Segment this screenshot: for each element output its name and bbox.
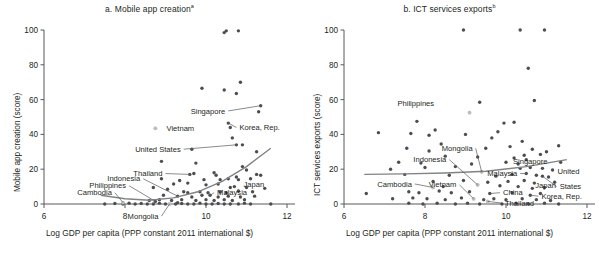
annotation-label: Korea, Rep. [239,123,280,132]
highlight-data-point [168,202,172,206]
annotation-label: Japan [535,181,556,190]
data-point [527,67,530,70]
data-point [133,202,136,205]
y-tick-label: 100 [24,26,38,35]
data-point [180,202,183,205]
data-point [496,130,499,133]
data-point [237,202,240,205]
annotation-label: United [558,167,580,176]
data-point [200,194,203,197]
annotation-label: Malaysia [217,188,248,197]
data-point [214,174,217,177]
data-point [194,161,197,164]
data-point [365,192,368,195]
data-point [204,183,207,186]
data-point [409,132,412,135]
data-point [454,202,457,205]
data-point [255,150,258,153]
y-tick-label: 80 [329,61,339,70]
data-point [484,147,487,150]
data-point [223,88,226,91]
annotation-label: Malaysia [487,169,518,178]
data-point [192,172,195,175]
data-point [407,190,410,193]
x-tick-label: 10 [201,212,211,221]
annotation-label: China [503,188,524,197]
data-point [486,181,489,184]
data-point [127,201,130,204]
data-point [160,160,163,163]
data-point [237,29,240,32]
data-point [502,121,505,124]
data-point [437,189,440,192]
data-point [506,180,509,183]
annotation-label: Vietnam [429,180,457,189]
data-point [202,178,205,181]
data-point [164,202,167,205]
annotation-label: Mongolia [128,212,160,221]
data-point [223,198,226,201]
highlight-data-point [153,126,157,130]
data-point [490,136,493,139]
data-point [523,179,526,182]
annotation-label: Singapore [513,157,548,166]
panel-a-plot-area: 020406080100681012SingaporeKorea, Rep.Vi… [0,0,299,225]
data-point [249,202,252,205]
data-point [186,181,189,184]
data-point [253,194,256,197]
data-point [397,161,400,164]
data-point [377,131,380,134]
annotation-label: Cambodia [377,180,412,189]
panel-b-x-axis-label: Log GDP per capita (PPP constant 2011 in… [300,228,599,238]
data-point [468,190,471,193]
data-point [518,28,521,31]
data-point [478,202,481,205]
data-point [210,202,213,205]
data-point [204,202,207,205]
highlight-data-point [468,111,472,115]
data-point [231,136,234,139]
annotation-label: Mongolia [442,144,474,153]
data-point [255,173,258,176]
data-point [158,201,161,204]
data-point [535,198,538,201]
data-point [257,110,260,113]
data-point [162,194,165,197]
panel-a-mobile-app-creation: a. Mobile app creationa Mobile app creat… [0,0,299,257]
data-point [231,199,234,202]
data-point [411,196,414,199]
data-point [478,101,481,104]
data-point [235,92,238,95]
data-point [229,126,232,129]
annotation-label: Cambodia [77,188,112,197]
y-tick-label: 60 [29,96,39,105]
data-point [504,161,507,164]
annotation-leader-line [228,106,260,111]
data-point [415,120,418,123]
annotation-leader-line [161,204,169,216]
data-point [470,162,473,165]
annotation-leader-line [184,145,237,149]
x-tick-label: 10 [501,212,511,221]
data-point [547,175,550,178]
data-point [557,144,560,147]
data-point [557,202,560,205]
data-point [450,191,453,194]
data-point [186,202,189,205]
data-point [462,28,465,31]
data-point [539,153,542,156]
annotation-label: Vietnam [166,124,194,133]
data-point [172,182,175,185]
data-point [508,145,511,148]
data-point [405,147,408,150]
annotation-leader-line [476,148,482,171]
annotation-leader-line [488,201,502,203]
data-point [192,202,195,205]
figure-container: a. Mobile app creationa Mobile app creat… [0,0,599,257]
data-point [466,201,469,204]
data-point [212,199,215,202]
y-tick-label: 0 [333,200,338,209]
data-point [535,174,538,177]
data-point [251,190,254,193]
data-point [545,150,548,153]
